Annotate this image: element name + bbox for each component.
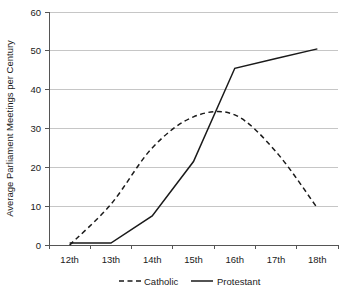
x-tick-label-12th: 12th	[60, 254, 79, 265]
line-chart: 60 50 40 30 20 10 0 12th 13th 14th 15th …	[0, 0, 344, 295]
x-tick-label-18th: 18th	[308, 254, 327, 265]
y-tick-label-0: 0	[36, 240, 41, 251]
x-tick-label-15th: 15th	[184, 254, 203, 265]
legend-label-protestant: Protestant	[217, 276, 261, 287]
chart-background	[0, 0, 344, 295]
x-tick-label-14th: 14th	[143, 254, 162, 265]
chart-container: 60 50 40 30 20 10 0 12th 13th 14th 15th …	[0, 0, 344, 295]
x-tick-label-17th: 17th	[267, 254, 286, 265]
y-tick-label-40: 40	[30, 84, 41, 95]
y-axis-title: Average Parliament Meetings per Century	[4, 40, 15, 217]
x-tick-label-16th: 16th	[226, 254, 245, 265]
y-tick-label-20: 20	[30, 162, 41, 173]
y-tick-label-60: 60	[30, 7, 41, 18]
y-tick-label-30: 30	[30, 123, 41, 134]
y-tick-label-50: 50	[30, 45, 41, 56]
y-tick-label-10: 10	[30, 201, 41, 212]
x-tick-label-13th: 13th	[102, 254, 121, 265]
legend-label-catholic: Catholic	[144, 276, 179, 287]
